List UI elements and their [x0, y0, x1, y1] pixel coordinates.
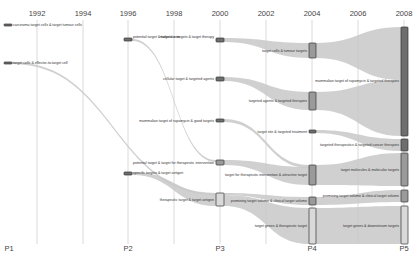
topic-label: target cells & tumour targets	[262, 49, 307, 53]
topic-label: target genes & therapeutic target	[255, 224, 307, 228]
flow-band	[224, 77, 309, 110]
topic-label: target genes & downstream targets	[343, 224, 399, 228]
topic-node[interactable]	[401, 190, 408, 202]
year-label: 1996	[120, 9, 137, 18]
topic-label: targeted agents & targeted therapies	[249, 99, 307, 103]
topic-node[interactable]	[401, 153, 408, 186]
year-label: 2000	[212, 9, 229, 18]
topic-label: mammalian target of rapamycin & good tar…	[139, 119, 214, 123]
year-label: 1992	[29, 9, 46, 18]
period-label: P1	[4, 244, 13, 253]
period-label: P5	[399, 244, 408, 253]
topic-label: target cells & effector-to-target cell	[13, 61, 68, 65]
year-label: 2002	[258, 9, 275, 18]
topic-label: specific targets & target antigen	[133, 171, 183, 175]
topic-node[interactable]	[4, 62, 12, 64]
topic-node[interactable]	[309, 43, 316, 58]
period-label: P2	[123, 244, 132, 253]
topic-label: target for therapeutic intervention & at…	[225, 173, 307, 177]
topic-node[interactable]	[216, 193, 224, 206]
year-label: 2008	[396, 9, 413, 18]
flow-band	[316, 80, 401, 136]
topic-node[interactable]	[309, 197, 316, 205]
topic-node[interactable]	[124, 38, 132, 41]
topic-node[interactable]	[401, 206, 408, 244]
topic-label: mammalian target of rapamycin & targeted…	[315, 79, 399, 83]
topic-label: promising target volume & clinical targe…	[231, 199, 307, 203]
topic-label: therapeutic target & target antigen	[160, 198, 214, 202]
topic-label: carcinoma target cells & target tumour c…	[13, 23, 82, 27]
flow-band	[224, 38, 309, 58]
topic-node[interactable]	[401, 27, 408, 136]
topic-node[interactable]	[309, 208, 316, 244]
topic-node[interactable]	[216, 38, 224, 42]
topic-node[interactable]	[309, 92, 316, 110]
year-label: 1994	[75, 9, 92, 18]
year-label: 2004	[304, 9, 321, 18]
flow-bands	[12, 27, 401, 244]
topic-label: molecular targets & target therapy	[160, 35, 214, 39]
topic-node[interactable]	[216, 119, 224, 122]
topic-node[interactable]	[4, 24, 12, 26]
topic-label: potential target & target for therapeuti…	[133, 161, 214, 165]
year-label: 1998	[166, 9, 183, 18]
topic-node[interactable]	[401, 139, 408, 151]
period-label: P4	[307, 244, 316, 253]
flow-band	[12, 62, 216, 195]
year-label: 2006	[350, 9, 367, 18]
topic-node[interactable]	[309, 130, 316, 133]
topic-node[interactable]	[124, 172, 132, 175]
topic-node[interactable]	[216, 160, 224, 165]
topic-node[interactable]	[309, 165, 316, 185]
topic-label: cellular target & targeted agents	[163, 77, 214, 81]
topic-label: target molecules & molecular targets	[341, 168, 399, 172]
topic-label: targeted therapeutics & targeted cancer …	[320, 143, 399, 147]
flow-band	[316, 27, 401, 80]
topic-label: promising target volume & clinical targe…	[323, 194, 399, 198]
topic-node[interactable]	[216, 77, 224, 81]
period-label: P3	[215, 244, 224, 253]
topic-label: target site & targeted treatment	[257, 130, 307, 134]
